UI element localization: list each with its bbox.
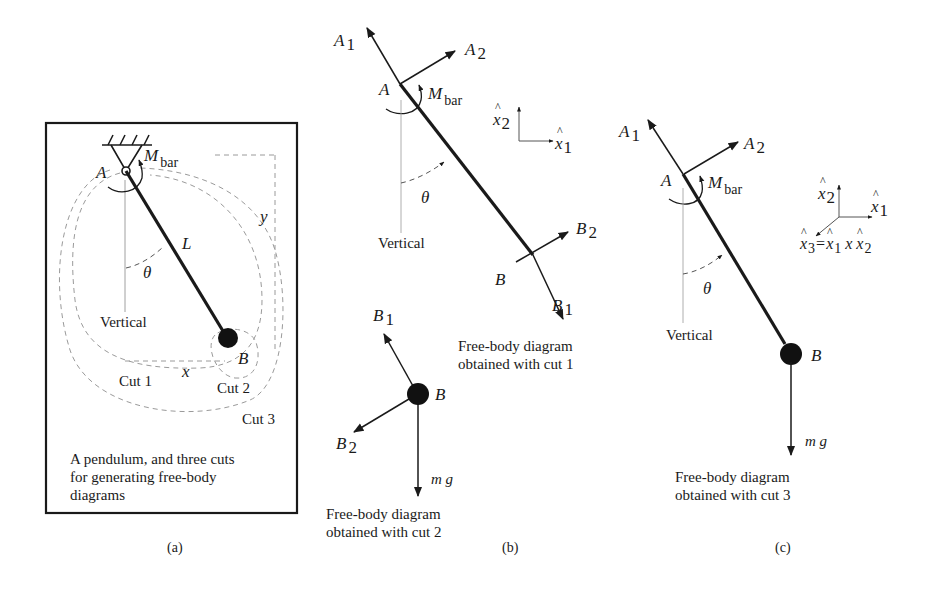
label-length: L	[181, 234, 191, 253]
panel-a: A Mbar L θ y x Vertical B Cut 1 Cut 2 Cu…	[46, 123, 297, 556]
cut-3-line	[59, 168, 283, 412]
label-weight: m g	[431, 471, 454, 487]
pendulum-bob	[780, 343, 802, 365]
fbd2-caption-line-1: Free-body diagram	[326, 506, 441, 522]
arrow-b2	[354, 399, 409, 432]
label-theta: θ	[703, 279, 711, 298]
theta-arc	[683, 255, 722, 274]
fbd-cut-2: B1 B B2 m g Free-body diagram obtained w…	[326, 306, 454, 540]
hat-x1: ^	[557, 124, 563, 138]
label-a1: A1	[618, 122, 640, 145]
label-point-b: B	[495, 270, 506, 289]
label-point-a: A	[660, 171, 672, 190]
fbd1-caption-line-1: Free-body diagram	[458, 338, 573, 354]
label-vertical: Vertical	[666, 327, 713, 343]
label-moment: Mbar	[143, 146, 178, 170]
hat-x2: ^	[495, 100, 501, 114]
pendulum-bar	[126, 171, 226, 336]
label-cut-2: Cut 2	[217, 380, 250, 396]
hat-x3: ^	[801, 225, 807, 239]
panel-b: A1 A2 A Mbar θ Vertical B B2 B1 x2 ^ x1 …	[326, 28, 597, 556]
label-moment: Mbar	[427, 84, 462, 108]
label-vertical: Vertical	[378, 235, 425, 251]
cut-lines	[59, 155, 283, 412]
fbd1-caption-line-2: obtained with cut 1	[458, 356, 573, 372]
hat-x2b: ^	[857, 225, 863, 239]
label-point-a: A	[95, 163, 107, 182]
label-a2: A2	[743, 134, 765, 157]
label-moment: Mbar	[707, 173, 742, 197]
panel-b-label: (b)	[502, 540, 519, 556]
label-a1: A1	[333, 31, 355, 54]
arrow-a1	[367, 28, 400, 84]
label-b2: B2	[576, 219, 597, 242]
label-vertical: Vertical	[100, 314, 147, 330]
axes-icon	[519, 107, 553, 141]
panel-c-caption-line-2: obtained with cut 3	[675, 487, 790, 503]
panel-a-caption-line-1: A pendulum, and three cuts	[70, 451, 235, 467]
label-theta: θ	[143, 263, 151, 282]
label-cut-1: Cut 1	[119, 373, 152, 389]
label-point-b: B	[435, 385, 446, 404]
label-theta: θ	[421, 188, 429, 207]
bob	[407, 383, 429, 405]
bar-segment	[400, 84, 533, 255]
pendulum-bob	[218, 328, 238, 348]
label-x: x	[181, 362, 190, 381]
arrow-a1	[648, 120, 683, 174]
panel-a-caption-line-3: diagrams	[70, 487, 125, 503]
fbd2-caption-line-2: obtained with cut 2	[326, 524, 441, 540]
label-b1: B1	[552, 296, 573, 319]
panel-c-label: (c)	[775, 540, 791, 556]
panel-a-caption-line-2: for generating free-body	[70, 469, 217, 485]
hat-x1: ^	[873, 187, 879, 201]
panel-c: A1 A2 A Mbar θ Vertical B m g x2 ^ x1 ^ …	[618, 120, 888, 556]
label-y: y	[258, 207, 268, 226]
pendulum-figure: A Mbar L θ y x Vertical B Cut 1 Cut 2 Cu…	[0, 0, 936, 592]
label-cut-3: Cut 3	[242, 411, 275, 427]
arrow-b2	[516, 232, 568, 262]
label-a2: A2	[464, 40, 486, 63]
hat-x2: ^	[820, 174, 826, 188]
panel-a-label: (a)	[167, 540, 183, 556]
label-b1: B1	[373, 306, 394, 329]
label-weight: m g	[805, 433, 828, 449]
arrow-a2	[400, 51, 455, 84]
label-point-b: B	[811, 346, 822, 365]
arrow-a2	[684, 142, 738, 174]
label-b2: B2	[336, 434, 357, 457]
theta-arc	[401, 162, 444, 183]
arrow-b1	[384, 334, 413, 386]
label-point-a: A	[378, 80, 390, 99]
hat-x1b: ^	[827, 225, 833, 239]
panel-c-caption-line-1: Free-body diagram	[675, 469, 790, 485]
label-point-b: B	[238, 349, 249, 368]
